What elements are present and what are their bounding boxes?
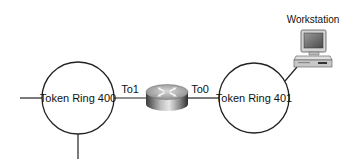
workstation-icon <box>294 30 332 67</box>
token-ring-400: Token Ring 400 <box>40 62 116 134</box>
interface-to1-label: To1 <box>121 83 139 95</box>
workstation-label: Workstation <box>287 14 340 25</box>
network-diagram: Token Ring 400 Token Ring 401 To1 To0 Wo… <box>0 0 355 167</box>
link-ring401-workstation <box>285 67 297 81</box>
token-ring-401-label: Token Ring 401 <box>216 92 292 104</box>
interface-to0-label: To0 <box>191 83 209 95</box>
token-ring-401: Token Ring 401 <box>216 63 292 133</box>
router-icon <box>146 85 188 112</box>
token-ring-400-label: Token Ring 400 <box>40 92 116 104</box>
